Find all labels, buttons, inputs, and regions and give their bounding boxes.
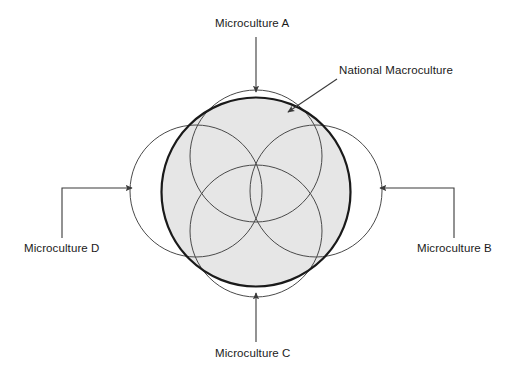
label-microculture-d: Microculture D [24, 242, 100, 254]
label-microculture-a: Microculture A [215, 17, 289, 29]
connector-microculture-b [380, 188, 454, 238]
venn-diagram-graphic [0, 0, 512, 378]
label-microculture-b: Microculture B [417, 242, 492, 254]
connector-national-macroculture [288, 79, 337, 112]
label-microculture-c: Microculture C [215, 347, 291, 359]
label-national-macroculture: National Macroculture [339, 64, 453, 76]
connector-microculture-d [62, 188, 132, 238]
diagram-canvas: Microculture A Microculture B Microcultu… [0, 0, 512, 378]
